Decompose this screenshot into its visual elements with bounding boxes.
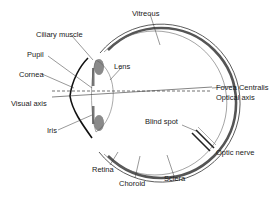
label-optic-nerve: Optic nerve xyxy=(216,149,254,157)
label-cornea: Cornea xyxy=(19,71,44,79)
label-visual-axis: Visual axis xyxy=(11,100,47,108)
label-sclera: Sclera xyxy=(164,175,185,183)
cornea xyxy=(70,58,92,138)
ciliary-muscle-lower xyxy=(94,115,104,131)
label-ciliary-muscle: Ciliary muscle xyxy=(36,31,83,39)
visual-axis xyxy=(52,87,212,97)
label-pupil: Pupil xyxy=(27,51,44,59)
label-choroid: Choroid xyxy=(119,180,145,188)
label-lens: Lens xyxy=(114,63,130,71)
label-blind-spot: Blind spot xyxy=(145,118,178,126)
retina-line xyxy=(104,31,227,175)
label-optical-axis: Optical axis xyxy=(216,94,255,102)
label-vitreous: Vitreous xyxy=(132,10,159,18)
label-iris: Iris xyxy=(47,127,57,135)
label-fovea-centralis: Fovea Centralis xyxy=(216,84,269,92)
label-retina: Retina xyxy=(92,166,114,174)
sclera-outline xyxy=(99,24,240,182)
